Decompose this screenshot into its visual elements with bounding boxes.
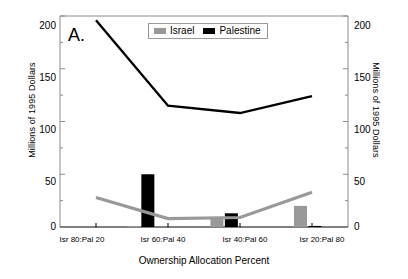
bar-israel-2	[210, 219, 223, 227]
line-series-palestine	[96, 20, 312, 113]
plot-area	[0, 0, 408, 279]
bar-palestine-3	[225, 213, 238, 227]
line-series-group	[96, 20, 312, 218]
bar-palestine-1	[141, 174, 154, 227]
bar-israel-4	[294, 206, 307, 227]
chart-figure: Millions of 1995 Dollars Millions of 199…	[0, 0, 408, 279]
bar-palestine-5	[308, 226, 321, 227]
bar-israel-0	[127, 226, 140, 227]
line-series-israel	[96, 192, 312, 218]
